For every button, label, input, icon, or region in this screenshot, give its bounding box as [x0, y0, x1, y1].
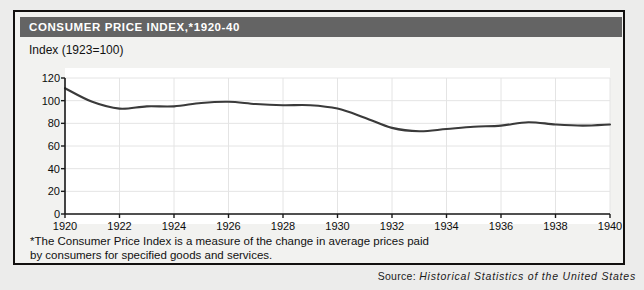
source-line: Source: Historical Statistics of the Uni…	[0, 270, 636, 282]
x-tick-label: 1934	[434, 220, 458, 232]
plot-wrapper: 020406080100120 192019221924192619281930…	[15, 12, 627, 267]
x-axis-labels: 1920192219241926192819301932193419361938…	[15, 12, 627, 267]
footnote-line-1: *The Consumer Price Index is a measure o…	[30, 234, 590, 248]
x-tick-label: 1930	[325, 220, 349, 232]
x-tick-label: 1920	[53, 220, 77, 232]
figure-root: CONSUMER PRICE INDEX,*1920-40 Index (192…	[0, 0, 644, 290]
x-tick-label: 1922	[107, 220, 131, 232]
chart-card: CONSUMER PRICE INDEX,*1920-40 Index (192…	[13, 10, 625, 265]
x-tick-label: 1938	[543, 220, 567, 232]
chart-footnote: *The Consumer Price Index is a measure o…	[30, 234, 590, 262]
x-tick-label: 1926	[216, 220, 240, 232]
x-tick-label: 1936	[489, 220, 513, 232]
x-tick-label: 1924	[162, 220, 186, 232]
x-tick-label: 1932	[380, 220, 404, 232]
source-label: Source:	[378, 270, 416, 282]
footnote-line-2: by consumers for specified goods and ser…	[30, 248, 590, 262]
source-title: Historical Statistics of the United Stat…	[419, 270, 636, 282]
x-tick-label: 1940	[598, 220, 622, 232]
x-tick-label: 1928	[271, 220, 295, 232]
